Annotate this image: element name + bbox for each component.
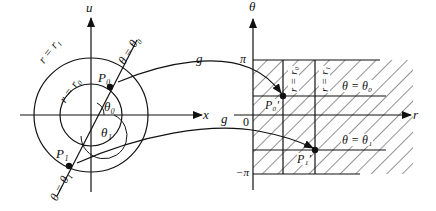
neg-pi-tick-label: −π — [236, 167, 249, 178]
angle1-label: θ₁ — [101, 126, 112, 139]
u-axis-label: u — [86, 1, 93, 14]
point-p0-prime-label: P₀′ — [265, 99, 279, 111]
theta0-line-label: θ = θ₀ — [341, 80, 373, 92]
angle-theta0-arc — [97, 103, 104, 115]
angle0-label: θ₀ — [104, 100, 115, 113]
point-p1-prime-label: P₁′ — [297, 153, 311, 165]
right-plane — [234, 19, 413, 190]
point-p0-label: P₀ — [98, 71, 110, 84]
mapping-top-label: g — [196, 52, 203, 65]
zero-label: 0 — [243, 116, 249, 128]
hatched-strip — [253, 60, 413, 174]
point-p1 — [66, 163, 72, 169]
pi-tick-label: π — [240, 53, 246, 65]
theta1-line-label: θ = θ₁ — [341, 134, 373, 146]
point-p1-label: P₁ — [56, 147, 68, 160]
r-axis-label: r — [413, 108, 418, 121]
mapping-bottom-label: g — [221, 112, 228, 125]
r1-line-label: r = r₁ — [319, 66, 330, 93]
x-axis-label: x — [203, 108, 209, 121]
point-p1-prime — [312, 147, 318, 153]
point-p0-prime — [280, 93, 286, 99]
r0-line-label: r = r₀ — [288, 66, 299, 93]
theta-axis-label: θ — [249, 0, 255, 13]
